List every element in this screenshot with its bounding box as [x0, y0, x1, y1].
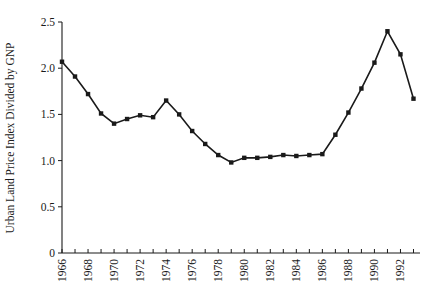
data-point-marker: [385, 29, 389, 33]
chart-figure: Urban Land Price Index Divided by GNP 00…: [0, 0, 437, 306]
x-tick-label: 1982: [264, 259, 276, 282]
data-point-marker: [125, 117, 129, 121]
data-point-marker: [177, 112, 181, 116]
y-axis-label-text: Urban Land Price Index Divided by GNP: [4, 43, 17, 234]
x-tick-label: 1978: [212, 259, 224, 282]
data-point-marker: [229, 160, 233, 164]
x-tick-label: 1974: [160, 259, 172, 282]
y-tick-label: 1.5: [41, 108, 56, 120]
data-point-marker: [99, 111, 103, 115]
y-tick-label: 2.5: [41, 16, 56, 28]
data-point-marker: [372, 60, 376, 64]
data-series-line: [62, 31, 413, 162]
x-tick-label: 1992: [394, 259, 406, 282]
y-tick-label: 1.0: [41, 155, 56, 167]
data-point-marker: [255, 156, 259, 160]
x-tick-label: 1988: [342, 259, 354, 282]
y-tick-label: 0.5: [41, 201, 56, 213]
data-point-marker: [242, 156, 246, 160]
x-tick-label: 1986: [316, 259, 328, 282]
data-point-marker: [346, 110, 350, 114]
data-point-marker: [333, 133, 337, 137]
x-tick-label: 1968: [82, 259, 94, 282]
y-axis-ticks: 00.51.01.52.02.5: [41, 16, 62, 259]
data-point-marker: [216, 153, 220, 157]
data-point-marker: [112, 121, 116, 125]
x-axis-ticks: 1966196819701972197419761978198019821984…: [56, 249, 413, 282]
x-tick-label: 1972: [134, 259, 146, 282]
data-point-marker: [60, 60, 64, 64]
data-point-marker: [73, 74, 77, 78]
data-point-marker: [138, 113, 142, 117]
y-tick-label: 2.0: [41, 62, 56, 74]
x-tick-label: 1976: [186, 259, 198, 282]
x-tick-label: 1984: [290, 259, 302, 282]
data-point-marker: [268, 155, 272, 159]
data-point-marker: [294, 154, 298, 158]
line-chart: Urban Land Price Index Divided by GNP 00…: [0, 0, 437, 306]
data-point-marker: [203, 142, 207, 146]
y-axis-label: Urban Land Price Index Divided by GNP: [4, 43, 17, 234]
data-point-marker: [86, 92, 90, 96]
data-point-marker: [398, 52, 402, 56]
data-point-marker: [359, 86, 363, 90]
y-tick-label: 0: [49, 247, 55, 259]
x-tick-label: 1980: [238, 259, 250, 282]
data-point-marker: [151, 115, 155, 119]
data-point-marker: [164, 98, 168, 102]
x-tick-label: 1966: [56, 259, 68, 282]
data-point-marker: [281, 153, 285, 157]
x-tick-label: 1970: [108, 259, 120, 282]
data-series-markers: [60, 29, 416, 165]
data-point-marker: [411, 96, 415, 100]
x-tick-label: 1990: [368, 259, 380, 282]
data-point-marker: [307, 153, 311, 157]
data-point-marker: [190, 129, 194, 133]
data-point-marker: [320, 152, 324, 156]
